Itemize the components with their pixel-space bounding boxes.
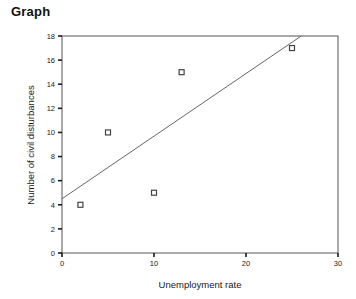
plot-frame bbox=[62, 36, 338, 253]
data-point-marker bbox=[106, 130, 111, 135]
y-axis-title: Number of civil disturbances bbox=[25, 85, 36, 205]
data-point-marker bbox=[179, 70, 184, 75]
data-point-marker bbox=[290, 46, 295, 51]
data-point-marker bbox=[78, 202, 83, 207]
y-axis-ticks: 024681012141618 bbox=[47, 32, 62, 258]
trendline bbox=[62, 36, 301, 199]
y-tick-label: 16 bbox=[47, 56, 55, 65]
y-tick-label: 4 bbox=[51, 201, 55, 210]
y-tick-label: 18 bbox=[47, 32, 55, 41]
y-tick-label: 10 bbox=[47, 128, 55, 137]
x-axis-title: Unemployment rate bbox=[159, 279, 242, 290]
y-tick-label: 2 bbox=[51, 225, 55, 234]
y-tick-label: 8 bbox=[51, 152, 55, 161]
x-tick-label: 10 bbox=[150, 259, 158, 268]
data-markers bbox=[78, 46, 295, 208]
x-tick-label: 30 bbox=[334, 259, 342, 268]
x-tick-label: 0 bbox=[60, 259, 64, 268]
y-tick-label: 0 bbox=[51, 249, 55, 258]
x-axis-ticks: 0102030 bbox=[60, 253, 342, 268]
y-tick-label: 6 bbox=[51, 176, 55, 185]
y-tick-label: 14 bbox=[47, 80, 55, 89]
scatter-plot: 024681012141618 0102030 Unemployment rat… bbox=[0, 0, 356, 299]
y-tick-label: 12 bbox=[47, 104, 55, 113]
data-point-marker bbox=[152, 190, 157, 195]
x-tick-label: 20 bbox=[242, 259, 250, 268]
chart-page: Graph 024681012141618 0102030 Unemployme… bbox=[0, 0, 356, 299]
